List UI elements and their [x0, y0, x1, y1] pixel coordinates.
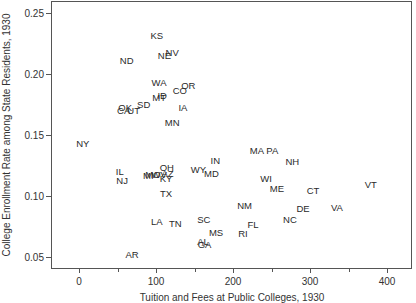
y-axis-label: College Enrollment Rate among State Resi…	[1, 14, 12, 257]
data-point-mt: MT	[152, 94, 166, 104]
x-minor-tick	[272, 269, 273, 272]
y-tick-label: 0.25	[25, 8, 44, 19]
x-tick	[79, 269, 80, 273]
data-point-nm: NM	[237, 201, 252, 211]
x-minor-tick	[195, 269, 196, 272]
data-point-ar: AR	[126, 250, 139, 260]
data-point-vt: VT	[365, 180, 377, 190]
data-point-co: CO	[173, 86, 187, 96]
data-point-va: VA	[331, 203, 343, 213]
data-point-pa: PA	[266, 146, 278, 156]
x-tick-label: 0	[76, 276, 82, 287]
data-point-wa: WA	[152, 78, 167, 88]
y-tick-label: 0.05	[25, 252, 44, 263]
data-point-nh: NH	[285, 157, 299, 167]
x-tick	[310, 269, 311, 273]
x-minor-tick	[349, 269, 350, 272]
x-minor-tick	[118, 269, 119, 272]
y-tick	[46, 257, 51, 258]
data-point-fl: FL	[247, 221, 258, 231]
data-point-me: ME	[270, 184, 284, 194]
data-point-nc: NC	[283, 216, 297, 226]
data-point-nd: ND	[120, 56, 134, 66]
x-tick-label: 400	[379, 276, 396, 287]
data-point-sc: SC	[197, 216, 210, 226]
y-tick-label: 0.20	[25, 69, 44, 80]
x-tick	[233, 269, 234, 273]
data-point-md: MD	[204, 169, 219, 179]
data-point-ut: UT	[127, 106, 140, 116]
x-axis-label: Tuition and Fees at Public Colleges, 193…	[140, 292, 325, 303]
data-point-wv: WV	[151, 171, 166, 181]
data-point-ks: KS	[150, 31, 163, 41]
data-point-la: LA	[151, 217, 163, 227]
y-tick-label: 0.10	[25, 191, 44, 202]
x-tick	[156, 269, 157, 273]
data-point-de: DE	[296, 205, 309, 215]
y-tick	[46, 13, 51, 14]
data-point-ri: RI	[238, 229, 248, 239]
data-point-ia: IA	[178, 103, 187, 113]
data-point-in: IN	[211, 156, 221, 166]
data-point-ny: NY	[76, 139, 89, 149]
data-point-ms: MS	[209, 228, 223, 238]
x-tick-label: 300	[302, 276, 319, 287]
y-tick	[46, 74, 51, 75]
data-point-tx: TX	[160, 189, 172, 199]
data-point-ne: NE	[158, 51, 171, 61]
data-point-tn: TN	[169, 219, 182, 229]
x-tick-label: 100	[148, 276, 165, 287]
x-tick-label: 200	[225, 276, 242, 287]
data-point-ga: GA	[198, 240, 212, 250]
data-point-ct: CT	[307, 186, 320, 196]
y-tick	[46, 135, 51, 136]
data-point-mn: MN	[165, 118, 180, 128]
x-tick	[387, 269, 388, 273]
y-tick-label: 0.15	[25, 130, 44, 141]
data-point-ma: MA	[250, 146, 264, 156]
plot-area	[51, 1, 412, 269]
data-point-nj: NJ	[116, 177, 128, 187]
y-tick	[46, 196, 51, 197]
